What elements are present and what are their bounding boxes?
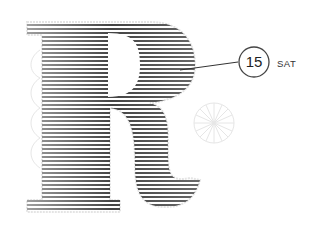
letter-r-stripes xyxy=(0,0,318,231)
day-label: SAT xyxy=(277,58,296,69)
scallop-ornament-icon xyxy=(31,50,40,168)
wheel-ornament-icon xyxy=(194,103,234,143)
letter-r-artwork xyxy=(0,0,318,231)
date-number: 15 xyxy=(238,49,270,75)
